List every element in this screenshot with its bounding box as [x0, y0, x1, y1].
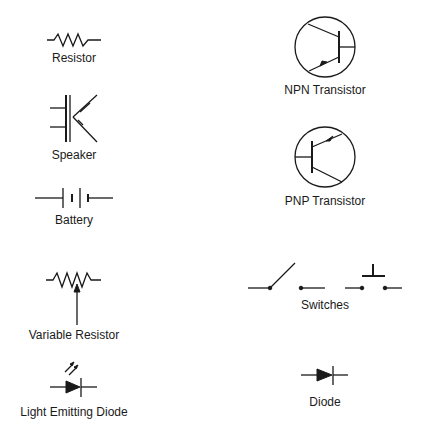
battery-label: Battery	[55, 213, 93, 227]
led-icon	[50, 362, 97, 397]
switches-label: Switches	[301, 298, 349, 312]
npn-transistor-label: NPN Transistor	[284, 83, 365, 97]
npn-transistor-icon	[295, 17, 355, 77]
diode-icon	[301, 366, 348, 385]
led-label: Light Emitting Diode	[20, 405, 127, 419]
resistor-icon	[47, 34, 101, 46]
variable-resistor-label: Variable Resistor	[29, 328, 119, 342]
battery-icon	[35, 188, 113, 208]
variable-resistor-icon	[46, 273, 101, 325]
pnp-transistor-label: PNP Transistor	[285, 194, 365, 208]
speaker-label: Speaker	[52, 148, 97, 162]
pnp-transistor-icon	[295, 127, 355, 187]
switches-icon	[248, 263, 402, 290]
speaker-icon	[50, 95, 97, 142]
resistor-label: Resistor	[52, 51, 96, 65]
diode-label: Diode	[309, 395, 340, 409]
